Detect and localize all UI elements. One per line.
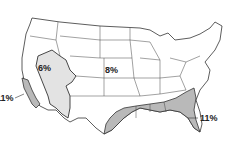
label-great-basin: 6%	[38, 64, 51, 73]
leader-line-west	[15, 94, 24, 98]
label-central: 8%	[105, 66, 118, 75]
label-southeast: 11%	[200, 114, 218, 123]
label-west-coast: 11%	[0, 94, 14, 103]
us-map	[0, 0, 239, 161]
